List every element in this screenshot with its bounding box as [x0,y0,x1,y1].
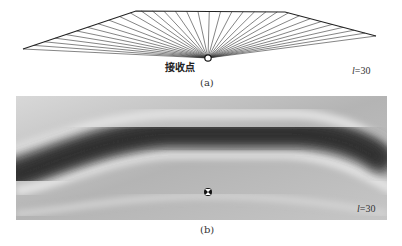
param-label-b: l=30 [357,203,375,214]
param-label-a: l=30 [352,65,370,76]
param-value: =30 [355,65,371,76]
caption-b: (b) [200,224,214,235]
receiver-point-icon [205,55,211,61]
receiver-label: 接收点 [165,59,195,74]
param-value: =30 [360,203,376,214]
field-map-panel-b [16,96,387,220]
ray-fan [23,11,376,58]
caption-a: (a) [200,77,214,88]
surface-boundary [23,11,376,49]
